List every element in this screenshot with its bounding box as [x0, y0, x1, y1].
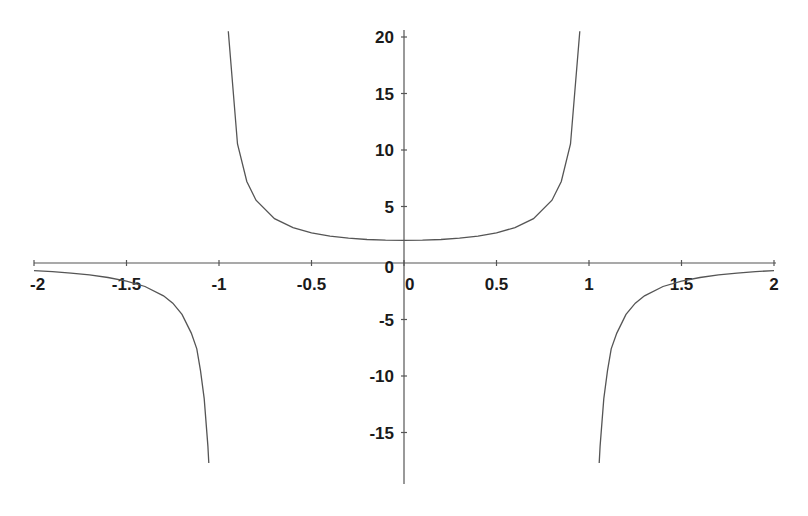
- left-branch-curve: [34, 271, 209, 463]
- axes: [34, 30, 776, 484]
- x-axis-tick-labels: -2-1.5-1-0.500.511.52: [30, 275, 779, 294]
- y-tick-label: 5: [385, 198, 394, 217]
- x-tick-label: -0.5: [297, 275, 326, 294]
- y-tick-label: 15: [375, 85, 394, 104]
- y-tick-label: -10: [369, 367, 394, 386]
- y-axis-tick-labels: 20151050-5-10-15: [369, 28, 394, 443]
- right-branch-curve: [599, 271, 774, 463]
- x-tick-label: 1: [584, 275, 593, 294]
- y-tick-label: 10: [375, 141, 394, 160]
- y-tick-label: -5: [379, 311, 394, 330]
- x-tick-label: -1: [211, 275, 226, 294]
- x-tick-label: 1.5: [670, 275, 694, 294]
- x-tick-label: 0: [405, 275, 414, 294]
- x-tick-label: 2: [769, 275, 778, 294]
- x-tick-label: 0.5: [485, 275, 509, 294]
- function-plot: -2-1.5-1-0.500.511.52 20151050-5-10-15: [0, 0, 808, 516]
- y-tick-label: 20: [375, 28, 394, 47]
- y-tick-label: -15: [369, 424, 394, 443]
- y-tick-label: 0: [385, 258, 394, 277]
- x-tick-label: -2: [30, 275, 45, 294]
